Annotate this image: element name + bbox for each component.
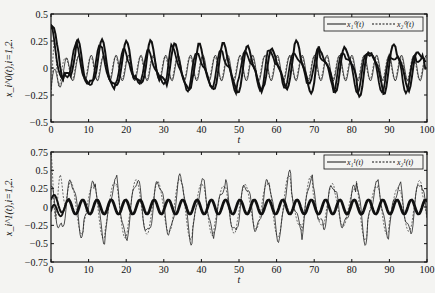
x-tick-label: 30 bbox=[159, 264, 169, 275]
y-tick-label: −0.5 bbox=[30, 117, 48, 128]
x-tick-label: 20 bbox=[121, 264, 131, 275]
x-tick-label: 0 bbox=[49, 124, 54, 135]
y-tick-label: −0.75 bbox=[25, 257, 48, 268]
y-tick-label: 0.75 bbox=[31, 147, 49, 158]
legend-label-2: x₂⁰(t) bbox=[396, 20, 414, 29]
y-axis-label: x_i^1(t),i=1,2. bbox=[3, 178, 15, 237]
legend-label-1: x₁⁰(t) bbox=[346, 20, 364, 29]
top-panel: 01020304050607080901000.50.250−0.25−0.5t… bbox=[3, 9, 435, 146]
x-tick-label: 100 bbox=[420, 264, 435, 275]
x-tick-label: 40 bbox=[196, 264, 206, 275]
y-tick-label: −0.25 bbox=[25, 220, 48, 231]
x-tick-label: 60 bbox=[272, 264, 282, 275]
x-tick-label: 80 bbox=[347, 264, 357, 275]
x-tick-label: 10 bbox=[84, 264, 94, 275]
x-tick-label: 30 bbox=[159, 124, 169, 135]
x-tick-label: 70 bbox=[309, 124, 319, 135]
y-tick-label: −0.5 bbox=[30, 238, 48, 249]
x-axis-label: t bbox=[238, 134, 241, 145]
x-tick-label: 100 bbox=[420, 124, 435, 135]
figure: 01020304050607080901000.50.250−0.25−0.5t… bbox=[0, 0, 435, 293]
legend-label-1: x₁¹(t) bbox=[346, 158, 364, 167]
series-line-thick-2 bbox=[51, 24, 426, 93]
x-tick-label: 0 bbox=[49, 264, 54, 275]
x-axis-label: t bbox=[238, 274, 241, 285]
legend: x₁⁰(t)x₂⁰(t) bbox=[324, 17, 423, 31]
y-tick-label: 0.25 bbox=[31, 183, 49, 194]
y-tick-label: 0.5 bbox=[36, 9, 49, 20]
y-tick-label: 0.5 bbox=[36, 165, 49, 176]
x-tick-label: 90 bbox=[384, 264, 394, 275]
x-tick-label: 90 bbox=[384, 124, 394, 135]
legend: x₁¹(t)x₂¹(t) bbox=[324, 155, 423, 169]
x-tick-label: 20 bbox=[121, 124, 131, 135]
x-tick-label: 60 bbox=[272, 124, 282, 135]
x-tick-label: 70 bbox=[309, 264, 319, 275]
x-tick-label: 80 bbox=[347, 124, 357, 135]
x-tick-label: 40 bbox=[196, 124, 206, 135]
legend-label-2: x₂¹(t) bbox=[396, 158, 414, 167]
y-tick-label: −0.25 bbox=[25, 90, 48, 101]
y-tick-label: 0.25 bbox=[31, 36, 49, 47]
y-tick-label: 0 bbox=[43, 202, 48, 213]
y-tick-label: 0 bbox=[43, 63, 48, 74]
x-tick-label: 10 bbox=[84, 124, 94, 135]
series-group bbox=[51, 24, 427, 97]
y-axis-label: x_i^0(t),i=1,2. bbox=[3, 39, 15, 98]
bottom-panel: 01020304050607080901000.750.50.250−0.25−… bbox=[3, 147, 435, 286]
